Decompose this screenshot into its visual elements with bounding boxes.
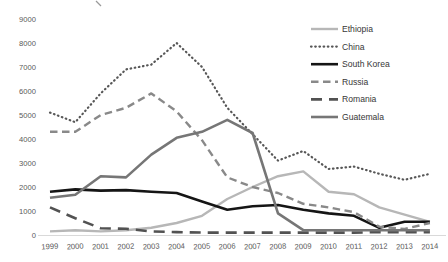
y-tick-label: 3000 [19, 159, 36, 168]
y-tick-label: 8000 [19, 39, 36, 48]
y-tick-label: 4000 [19, 135, 36, 144]
y-tick-label: 7000 [19, 63, 36, 72]
chart-canvas: 0100020003000400050006000700080009000 19… [0, 0, 448, 262]
y-tick-label: 9000 [19, 15, 36, 24]
legend-label-romania: Romania [342, 94, 377, 104]
legend-label-china: China [342, 42, 365, 52]
y-tick-label: 2000 [19, 183, 36, 192]
y-tick-label: 0 [32, 231, 36, 240]
cropped-title-artifact [96, 1, 101, 6]
x-tick-label: 2008 [269, 241, 286, 251]
x-axis-tick-labels: 1999200020012002200320042005200620072008… [41, 241, 438, 251]
series-lines [50, 43, 430, 233]
x-tick-label: 2003 [142, 241, 159, 251]
x-tick-label: 2012 [370, 241, 387, 251]
legend-label-ethiopia: Ethiopia [342, 24, 373, 34]
x-tick-label: 2005 [193, 241, 210, 251]
x-tick-label: 2014 [421, 241, 438, 251]
x-tick-label: 2001 [92, 241, 109, 251]
y-tick-label: 1000 [19, 207, 36, 216]
legend-label-guatemala: Guatemala [342, 112, 384, 122]
x-tick-label: 2002 [117, 241, 134, 251]
legend-label-russia: Russia [342, 77, 368, 87]
x-tick-label: 2007 [244, 241, 261, 251]
x-tick-label: 2013 [396, 241, 413, 251]
series-line-guatemala [50, 120, 430, 230]
y-axis-tick-labels: 0100020003000400050006000700080009000 [19, 15, 36, 240]
x-tick-label: 2009 [294, 241, 311, 251]
line-chart: 0100020003000400050006000700080009000 19… [0, 0, 448, 262]
x-tick-label: 2010 [320, 241, 337, 251]
x-tick-label: 2011 [345, 241, 362, 251]
x-tick-label: 1999 [41, 241, 58, 251]
x-tick-label: 2004 [168, 241, 185, 251]
y-tick-label: 6000 [19, 87, 36, 96]
legend: EthiopiaChinaSouth KoreaRussiaRomaniaGua… [311, 24, 390, 122]
legend-label-south-korea: South Korea [342, 59, 390, 69]
x-tick-label: 2000 [66, 241, 83, 251]
x-tick-label: 2006 [218, 241, 235, 251]
series-line-romania [50, 207, 430, 232]
y-tick-label: 5000 [19, 111, 36, 120]
artifact-mark [96, 1, 101, 6]
